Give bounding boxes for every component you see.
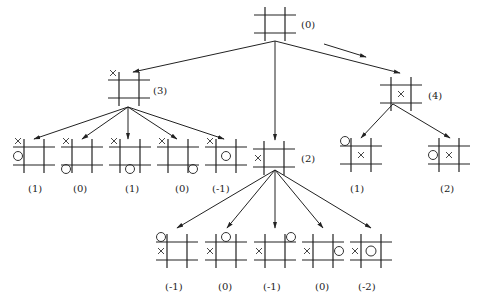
edge-n4-to-c1 bbox=[361, 104, 393, 138]
x-mark-icon bbox=[446, 152, 452, 158]
board-c1 bbox=[340, 137, 382, 173]
board-grid bbox=[302, 234, 344, 268]
board-grid bbox=[254, 7, 296, 41]
o-mark-icon bbox=[189, 165, 198, 174]
x-mark-icon bbox=[15, 138, 21, 144]
node-value-label: (0) bbox=[175, 183, 189, 194]
game-tree-diagram: (0) (3) (4) (2) (1) bbox=[0, 0, 478, 298]
board-n3 bbox=[108, 70, 150, 106]
o-mark-icon bbox=[341, 137, 350, 146]
board-a4 bbox=[157, 138, 199, 174]
board-grid bbox=[157, 139, 199, 173]
edge-n2-to-b5 bbox=[275, 170, 371, 228]
o-mark-icon bbox=[222, 152, 231, 161]
node-value-label: (-1) bbox=[263, 281, 281, 292]
board-b3 bbox=[254, 233, 296, 269]
x-mark-icon bbox=[207, 138, 213, 144]
node-value-label: (0) bbox=[315, 281, 329, 292]
board-grid bbox=[109, 139, 151, 173]
node-value-label: (4) bbox=[428, 90, 442, 101]
board-b1 bbox=[156, 233, 198, 269]
edge-n3-to-a5 bbox=[128, 107, 224, 139]
x-mark-icon bbox=[256, 248, 262, 254]
board-a1 bbox=[13, 138, 55, 173]
o-mark-icon bbox=[429, 151, 438, 160]
board-b5 bbox=[350, 234, 392, 268]
edge-n2-to-b1 bbox=[177, 170, 275, 228]
board-grid bbox=[253, 141, 295, 175]
x-mark-icon bbox=[63, 138, 69, 144]
o-mark-icon bbox=[222, 233, 231, 242]
x-mark-icon bbox=[304, 248, 310, 254]
node-value-label: (1) bbox=[350, 183, 364, 194]
node-value-label: (1) bbox=[28, 183, 42, 194]
x-mark-icon bbox=[158, 248, 164, 254]
o-mark-icon bbox=[14, 152, 23, 161]
board-grid bbox=[350, 234, 392, 268]
edge-root-to-n3 bbox=[133, 41, 275, 72]
node-value-label: (2) bbox=[440, 183, 454, 194]
node-value-label: (3) bbox=[153, 85, 167, 96]
o-mark-icon bbox=[287, 233, 296, 242]
board-grid bbox=[205, 139, 247, 173]
node-value-label: (1) bbox=[125, 183, 139, 194]
edge-n3-to-a1 bbox=[34, 107, 128, 139]
x-mark-icon bbox=[358, 152, 364, 158]
board-b4 bbox=[302, 234, 344, 268]
node-value-label: (2) bbox=[301, 153, 315, 164]
board-grid bbox=[205, 234, 247, 268]
x-mark-icon bbox=[207, 248, 213, 254]
board-root bbox=[254, 7, 296, 41]
board-grid bbox=[108, 72, 150, 106]
board-grid bbox=[156, 234, 198, 268]
node-value-label: (0) bbox=[301, 19, 315, 30]
node-value-label: (-1) bbox=[165, 281, 183, 292]
edge-n2-to-b4 bbox=[275, 170, 323, 228]
edge-n3-to-a2 bbox=[82, 107, 128, 139]
node-value-label: (0) bbox=[218, 281, 232, 292]
x-mark-icon bbox=[159, 138, 165, 144]
board-b2 bbox=[205, 233, 247, 269]
edge-n2-to-b2 bbox=[227, 170, 275, 228]
x-mark-icon bbox=[110, 70, 116, 76]
o-mark-icon bbox=[126, 165, 135, 174]
board-grid bbox=[254, 234, 296, 268]
board-grid bbox=[61, 139, 103, 173]
node-value-label: (-2) bbox=[358, 281, 376, 292]
tree-edges bbox=[34, 41, 450, 228]
o-mark-icon bbox=[157, 233, 166, 242]
board-grid bbox=[13, 139, 55, 173]
o-mark-icon bbox=[366, 246, 376, 256]
board-a2 bbox=[61, 138, 103, 174]
board-a3 bbox=[109, 138, 151, 174]
x-mark-icon bbox=[352, 248, 358, 254]
node-value-label: (-1) bbox=[212, 183, 230, 194]
edge-n3-to-a4 bbox=[128, 107, 177, 139]
o-mark-icon bbox=[335, 247, 344, 256]
edge-n4-to-c2 bbox=[393, 104, 450, 138]
board-n2 bbox=[253, 141, 295, 175]
edge-root-to-n4 bbox=[275, 41, 400, 73]
x-mark-icon bbox=[398, 91, 404, 97]
node-value-label: (0) bbox=[73, 183, 87, 194]
board-a5 bbox=[205, 138, 247, 173]
board-n4 bbox=[380, 77, 422, 111]
x-mark-icon bbox=[111, 138, 117, 144]
o-mark-icon bbox=[62, 165, 71, 174]
board-c2 bbox=[428, 138, 470, 172]
x-mark-icon bbox=[255, 155, 261, 161]
